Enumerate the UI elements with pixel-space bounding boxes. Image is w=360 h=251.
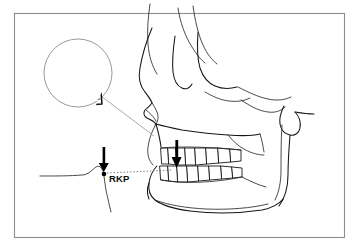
magnifier-leader	[101, 96, 154, 136]
rkp-label: RKP	[109, 173, 130, 184]
maxillary-teeth	[161, 147, 241, 165]
mandibular-teeth	[160, 166, 242, 182]
cranial-base-outline	[148, 4, 217, 74]
soft-tissue-profile	[148, 124, 156, 165]
figure-canvas: RKP	[0, 0, 360, 251]
condyle-and-ramus	[275, 106, 314, 206]
cephalometric-figure: RKP	[0, 0, 360, 251]
figure-border	[15, 14, 345, 238]
rkp-arrow	[99, 147, 109, 172]
rkp-point	[102, 172, 107, 177]
rkp-trace-curve	[40, 166, 111, 212]
occlusal-magnifier-contents	[52, 40, 102, 106]
orbital-outline	[173, 32, 250, 101]
frontal-nasal-profile	[139, 28, 158, 125]
